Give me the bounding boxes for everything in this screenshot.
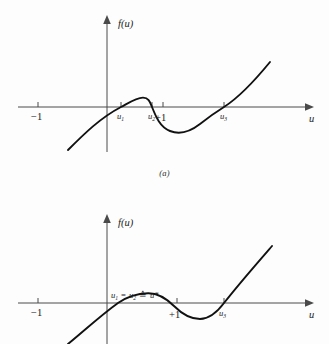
- annot-u1-sub: 1: [115, 295, 118, 301]
- y-axis-arrowhead-a: [103, 15, 111, 24]
- chart-panel-b: f(u) u −1 +1 u1=u2≙u* u3: [0, 190, 329, 344]
- curve-b: [68, 246, 272, 344]
- root-label-u2-a-sub: 2: [152, 116, 155, 122]
- tick-label-plus-one-a: +1: [155, 112, 166, 123]
- root-label-u1-a-sub: 1: [121, 116, 124, 122]
- root-label-u1-a: u1: [117, 111, 124, 122]
- tick-label-plus-one-b: +1: [169, 309, 180, 320]
- curve-a: [68, 62, 270, 150]
- x-axis-arrowhead-a: [305, 103, 314, 111]
- figure-page: f(u) u −1 +1 u1 u2 u3 (a) f(u) u: [0, 0, 329, 344]
- root-label-u3-a: u3: [220, 111, 227, 122]
- x-axis-arrowhead-b: [305, 299, 314, 307]
- root-label-u3-b-sub: 3: [222, 313, 226, 319]
- tick-label-minus-one-b: −1: [31, 307, 42, 318]
- y-axis-label-b: f(u): [118, 217, 134, 229]
- annotation-double-root-b: u1=u2≙u*: [111, 290, 159, 301]
- plot-a-svg: f(u) u −1 +1 u1 u2 u3: [0, 0, 329, 165]
- y-axis-arrowhead-b: [103, 214, 111, 223]
- chart-panel-a: f(u) u −1 +1 u1 u2 u3: [0, 0, 329, 165]
- plot-b-svg: f(u) u −1 +1 u1=u2≙u* u3: [0, 190, 329, 344]
- root-label-u3-b: u3: [219, 308, 226, 319]
- y-axis-label-a: f(u): [118, 18, 134, 30]
- annot-u-star: u*: [150, 290, 159, 300]
- caption-a: (a): [0, 168, 329, 178]
- x-axis-label-b: u: [309, 309, 314, 320]
- x-axis-label-a: u: [309, 113, 314, 124]
- tick-label-minus-one-a: −1: [31, 111, 42, 122]
- root-label-u3-a-sub: 3: [223, 116, 227, 122]
- annot-corresponds-sign: ≙: [139, 290, 147, 300]
- annot-equals-sign: =: [121, 290, 126, 300]
- annot-u2-sub: 2: [133, 295, 136, 301]
